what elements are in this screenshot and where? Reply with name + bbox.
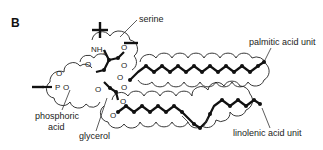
linolenic-label: linolenic acid unit — [233, 128, 302, 138]
glycerol-leader-line — [96, 98, 107, 131]
palmitic-chain-atoms — [144, 60, 266, 74]
serine-label: serine — [139, 14, 164, 24]
glycerol-label: glycerol — [79, 131, 110, 141]
phosphoric-label-line1: phosphoric — [35, 111, 80, 121]
phosphorus-label: P — [55, 83, 60, 92]
palmitic-leader-line — [264, 48, 271, 62]
palmitic-chain-bond — [130, 62, 264, 80]
oxygen-label-serine-1: O — [121, 43, 127, 52]
phospholipid-diagram: B serine palmitic acid unit phosphoric a… — [0, 0, 323, 150]
plus-charge-icon — [92, 22, 108, 38]
oxygen-label-phosphate-top: O — [56, 69, 62, 78]
phosphoric-leader-line — [62, 90, 70, 110]
panel-label: B — [11, 16, 20, 30]
palmitic-label: palmitic acid unit — [249, 37, 316, 47]
oxygen-label-phosphate-right: O — [95, 85, 101, 94]
oxygen-label-ester-3: O — [120, 97, 126, 106]
serine-leader-line — [120, 20, 137, 37]
oxygen-label-serine-2: O — [121, 61, 127, 70]
nh3-label: NH3 — [91, 45, 107, 55]
oxygen-label-ester-4: O — [110, 111, 116, 120]
linolenic-leader-line — [262, 108, 270, 128]
oxygen-label-phosphate-left: O — [63, 83, 69, 92]
oxygen-label-1: O — [85, 60, 91, 69]
phosphoric-label-line2: acid — [48, 122, 65, 132]
oxygen-label-ester-1: O — [117, 73, 123, 82]
oxygen-label-ester-2: O — [121, 83, 127, 92]
